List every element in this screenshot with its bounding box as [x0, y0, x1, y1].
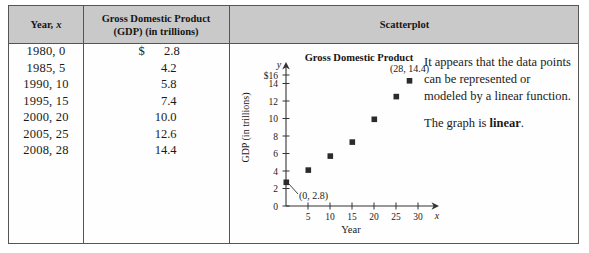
gdp-value: 2.8 — [150, 44, 180, 59]
x-axis-variable: x — [434, 210, 440, 221]
gdp-value: 10.0 — [147, 110, 177, 125]
cell-gdp: 5.8 — [83, 77, 229, 92]
gdp-value: 7.4 — [147, 94, 177, 109]
cell-year: 1985, 5 — [9, 61, 83, 76]
data-table-body: 1980, 0 $2.8 1985, 5 4.2 1990, 10 5.8 19… — [9, 44, 229, 243]
y-axis-variable: y — [276, 59, 282, 70]
y-axis-tick-labels: 0 2 4 6 8 10 12 14 $16 — [264, 71, 279, 212]
table-row: 1980, 0 $2.8 — [9, 44, 229, 61]
conclusion-paragraph-1: It appears that the data points can be r… — [424, 54, 572, 104]
conclusion-prefix: The graph is — [424, 116, 490, 130]
column-header-gdp-line2: (GDP) (in trillions) — [113, 26, 198, 37]
annotation-point-origin: (0, 2.8) — [299, 190, 328, 202]
cell-gdp: 7.4 — [83, 94, 229, 109]
data-point-marker — [284, 180, 290, 186]
cell-year: 2008, 28 — [9, 143, 83, 158]
column-header-year-variable: x — [56, 19, 61, 30]
cell-year: 1990, 10 — [9, 77, 83, 92]
currency-symbol: $ — [138, 44, 144, 58]
annotation-leader-line — [289, 184, 298, 194]
gdp-value: 14.4 — [147, 143, 177, 158]
x-axis-tick-labels: 5 10 15 20 25 30 — [306, 212, 423, 222]
x-tick-label: 20 — [369, 212, 379, 222]
cell-gdp: 14.4 — [83, 143, 229, 158]
conclusion-suffix: . — [521, 116, 524, 130]
column-header-year: Year,x — [9, 6, 83, 44]
gdp-value: 5.8 — [147, 77, 177, 92]
column-header-gdp: Gross Domestic Product (GDP) (in trillio… — [83, 6, 229, 44]
cell-year: 2005, 25 — [9, 127, 83, 142]
y-tick-label: 0 — [273, 202, 278, 212]
gdp-table-figure: Year,x Gross Domestic Product (GDP) (in … — [8, 5, 579, 244]
x-tick-label: 10 — [325, 212, 335, 222]
cell-gdp: 4.2 — [83, 61, 229, 76]
conclusion-paragraph-2: The graph is linear. — [424, 115, 572, 132]
gdp-value: 4.2 — [147, 61, 177, 76]
table-row: 2000, 20 10.0 — [9, 110, 229, 127]
data-point-marker — [407, 78, 413, 84]
x-tick-label: 30 — [413, 212, 423, 222]
y-tick-label: 4 — [273, 167, 278, 177]
y-tick-label: 10 — [269, 114, 279, 124]
x-tick-label: 25 — [391, 212, 401, 222]
y-tick-label: 8 — [273, 132, 278, 142]
column-header-scatterplot: Scatterplot — [229, 6, 580, 44]
y-tick-label: 2 — [273, 184, 278, 194]
cell-year: 1980, 0 — [9, 44, 83, 59]
cell-gdp: 12.6 — [83, 127, 229, 142]
table-row: 1985, 5 4.2 — [9, 61, 229, 78]
table-row: 2008, 28 14.4 — [9, 143, 229, 160]
x-tick-label: 5 — [306, 212, 311, 222]
table-row: 1995, 15 7.4 — [9, 94, 229, 111]
table-row: 1990, 10 5.8 — [9, 77, 229, 94]
cell-gdp: $2.8 — [83, 44, 229, 59]
table-header-band: Year,x Gross Domestic Product (GDP) (in … — [9, 6, 578, 44]
table-row: 2005, 25 12.6 — [9, 127, 229, 144]
gdp-value: 12.6 — [147, 127, 177, 142]
data-point-marker — [350, 139, 356, 145]
conclusion-text: It appears that the data points can be r… — [424, 54, 572, 132]
y-tick-label: 12 — [269, 97, 279, 107]
column-header-year-text: Year, — [31, 19, 54, 30]
data-point-marker — [394, 94, 400, 100]
data-point-marker — [372, 117, 378, 123]
y-tick-label: $16 — [264, 71, 279, 81]
cell-gdp: 10.0 — [83, 110, 229, 125]
conclusion-emphasis: linear — [490, 116, 521, 130]
x-tick-label: 15 — [347, 212, 357, 222]
data-point-marker — [328, 153, 334, 159]
cell-year: 1995, 15 — [9, 94, 83, 109]
data-point-marker — [306, 167, 312, 173]
scatter-data-points — [284, 78, 413, 185]
y-tick-label: 14 — [269, 79, 279, 89]
column-header-gdp-line1: Gross Domestic Product — [102, 13, 211, 24]
cell-year: 2000, 20 — [9, 110, 83, 125]
y-tick-label: 6 — [273, 149, 278, 159]
